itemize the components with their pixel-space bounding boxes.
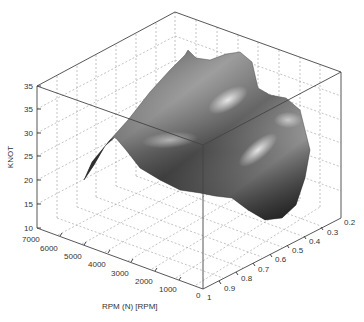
z-tick: 35 (24, 105, 41, 114)
z-axis: 35 35 30 25 20 15 10 KNOT (6, 82, 41, 233)
z-tick: 30 (24, 129, 41, 138)
y-tick-label: 1 (207, 293, 212, 302)
x-tick-label: 4000 (88, 260, 106, 269)
svg-text:35: 35 (24, 105, 33, 114)
z-tick: 15 (24, 200, 41, 209)
svg-text:15: 15 (24, 200, 33, 209)
z-tick: 25 (24, 152, 41, 161)
y-tick-label: 0.4 (309, 237, 321, 246)
y-tick-label: 0.6 (275, 255, 287, 264)
y-tick-label: 0.9 (224, 284, 236, 293)
svg-text:25: 25 (24, 152, 33, 161)
z-axis-label: KNOT (6, 146, 15, 168)
x-tick-label: 0 (196, 291, 201, 300)
surface-plot: 35 35 30 25 20 15 10 KNOT 7000 6000 5000… (0, 0, 364, 322)
x-tick-label: 7000 (22, 235, 40, 244)
z-tick: 20 (24, 176, 41, 185)
x-axis-label: RPM (N) [RPM] (102, 302, 158, 311)
x-tick-label: 5000 (64, 252, 82, 261)
svg-text:20: 20 (24, 176, 33, 185)
svg-text:10: 10 (24, 224, 33, 233)
x-tick-label: 1000 (159, 285, 177, 294)
z-tick: 35 (24, 82, 41, 91)
x-tick-label: 2000 (135, 277, 153, 286)
y-tick-label: 0.3 (327, 228, 339, 237)
x-tick-label: 6000 (40, 244, 58, 253)
svg-text:35: 35 (24, 82, 33, 91)
y-tick-label: 0.5 (292, 246, 304, 255)
y-tick-label: 0.7 (258, 265, 270, 274)
z-tick: 10 (24, 224, 41, 233)
x-tick-label: 3000 (111, 269, 129, 278)
svg-text:30: 30 (24, 129, 33, 138)
y-axis: 1 0.9 0.8 0.7 0.6 0.5 0.4 0.3 0.2 (207, 218, 356, 302)
y-tick-label: 0.2 (344, 218, 356, 227)
y-tick-label: 0.8 (241, 274, 253, 283)
x-axis: 7000 6000 5000 4000 3000 2000 1000 0 RPM… (22, 233, 201, 311)
surface (84, 50, 310, 220)
